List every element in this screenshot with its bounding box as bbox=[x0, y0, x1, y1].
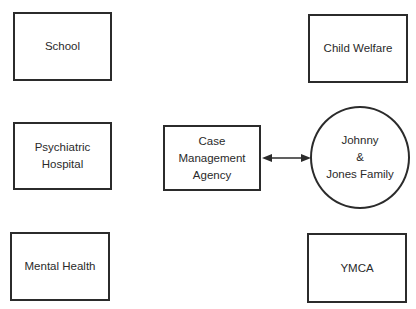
bidirectional-arrow bbox=[0, 0, 416, 309]
